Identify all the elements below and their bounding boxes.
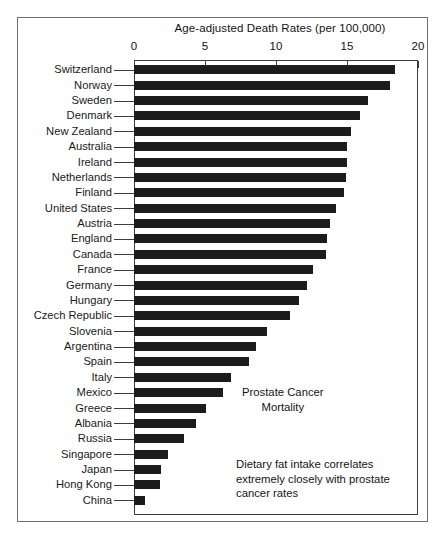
category-label-canada: Canada — [73, 249, 112, 260]
category-leader-line — [114, 162, 134, 163]
x-axis-tick-labels: 05101520 — [0, 40, 446, 56]
chart-axis-title: Age-adjusted Death Rates (per 100,000) — [135, 22, 425, 34]
category-leader-line — [114, 377, 134, 378]
category-leader-line — [114, 285, 134, 286]
category-label-mexico: Mexico — [77, 387, 112, 398]
category-leader-line — [114, 300, 134, 301]
bar — [134, 373, 231, 382]
bar-row — [134, 173, 418, 182]
bar-row — [134, 142, 418, 151]
x-tick-label: 0 — [131, 40, 137, 52]
category-leader-line — [114, 131, 134, 132]
bar — [134, 327, 267, 336]
bar — [134, 419, 196, 428]
bar — [134, 480, 160, 489]
category-leader-line — [114, 147, 134, 148]
category-leader-line — [114, 500, 134, 501]
category-leader-line — [114, 85, 134, 86]
bar-row — [134, 419, 418, 428]
bar-row — [134, 281, 418, 290]
x-tick-label: 20 — [412, 40, 425, 52]
bar — [134, 434, 184, 443]
bar-row — [134, 158, 418, 167]
bar — [134, 296, 299, 305]
bar — [134, 188, 344, 197]
category-label-czech-republic: Czech Republic — [34, 310, 112, 321]
category-leader-line — [114, 254, 134, 255]
bar — [134, 450, 168, 459]
bar-row — [134, 311, 418, 320]
x-tick-label: 10 — [270, 40, 283, 52]
category-leader-line — [114, 454, 134, 455]
bar-row — [134, 342, 418, 351]
bar — [134, 342, 256, 351]
category-label-spain: Spain — [83, 356, 112, 367]
bar — [134, 496, 145, 505]
x-tick-label: 5 — [202, 40, 208, 52]
bar-row — [134, 65, 418, 74]
bar — [134, 158, 347, 167]
bar — [134, 388, 223, 397]
category-leader-line — [114, 331, 134, 332]
category-label-new-zealand: New Zealand — [46, 126, 112, 137]
category-leader-line — [114, 193, 134, 194]
bar — [134, 281, 307, 290]
category-leader-line — [114, 239, 134, 240]
bar — [134, 234, 327, 243]
category-label-russia: Russia — [78, 433, 112, 444]
category-label-slovenia: Slovenia — [69, 326, 112, 337]
bar-row — [134, 81, 418, 90]
category-label-netherlands: Netherlands — [52, 172, 112, 183]
category-label-china: China — [83, 495, 112, 506]
category-label-singapore: Singapore — [61, 449, 112, 460]
category-label-norway: Norway — [74, 80, 112, 91]
bar-row — [134, 234, 418, 243]
x-tick-mark — [418, 61, 419, 68]
category-leader-line — [114, 347, 134, 348]
bar-row — [134, 188, 418, 197]
bar-row — [134, 96, 418, 105]
category-leader-line — [114, 470, 134, 471]
bar — [134, 404, 206, 413]
annotation-prostate-cancer-mortality: Prostate Cancer Mortality — [242, 385, 324, 414]
category-leader-line — [114, 70, 134, 71]
category-leader-line — [114, 116, 134, 117]
x-tick-label: 15 — [341, 40, 354, 52]
bar — [134, 204, 336, 213]
bar — [134, 65, 395, 74]
category-label-albania: Albania — [75, 418, 112, 429]
bar — [134, 465, 161, 474]
category-label-france: France — [77, 264, 112, 275]
category-leader-line — [114, 362, 134, 363]
category-leader-line — [114, 423, 134, 424]
bar — [134, 173, 346, 182]
bar — [134, 357, 249, 366]
category-label-england: England — [71, 233, 112, 244]
category-label-ireland: Ireland — [78, 157, 112, 168]
category-leader-line — [114, 485, 134, 486]
bar-row — [134, 357, 418, 366]
bar-row — [134, 111, 418, 120]
bar — [134, 111, 360, 120]
category-label-italy: Italy — [91, 372, 112, 383]
category-label-sweden: Sweden — [72, 95, 112, 106]
bar — [134, 81, 390, 90]
chart-page: Age-adjusted Death Rates (per 100,000) 0… — [0, 0, 446, 554]
bar-row — [134, 219, 418, 228]
bar — [134, 265, 313, 274]
bar-row — [134, 204, 418, 213]
category-label-switzerland: Switzerland — [54, 64, 112, 75]
category-labels: SwitzerlandNorwaySwedenDenmarkNew Zealan… — [0, 60, 134, 515]
category-label-japan: Japan — [82, 464, 112, 475]
category-leader-line — [114, 224, 134, 225]
category-label-germany: Germany — [66, 280, 112, 291]
bar — [134, 142, 347, 151]
bar-row — [134, 265, 418, 274]
bar — [134, 219, 330, 228]
category-leader-line — [114, 439, 134, 440]
bar — [134, 250, 326, 259]
category-leader-line — [114, 316, 134, 317]
category-label-hungary: Hungary — [70, 295, 112, 306]
category-leader-line — [114, 177, 134, 178]
category-label-finland: Finland — [75, 187, 112, 198]
